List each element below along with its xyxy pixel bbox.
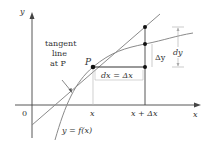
y-axis-label: y — [19, 7, 25, 16]
point-p — [91, 65, 96, 70]
dy-bracket — [172, 27, 184, 67]
dy-arrow-down-icon — [177, 63, 180, 67]
tangent-label-line1: tangent — [45, 39, 77, 48]
dy-label: dy — [173, 48, 183, 57]
dy-arrow-up-icon — [177, 28, 180, 32]
tangent-label-line3: at P — [50, 59, 67, 68]
x-axis-arrow-icon — [194, 103, 201, 108]
differential-diagram: y x 0 x x + Δx P tangent line at P dx = … — [0, 0, 206, 144]
x-plus-dx-tick-label: x + Δx — [131, 109, 158, 118]
curve-label: y = f(x) — [61, 126, 92, 135]
point-curve-end — [143, 42, 147, 46]
dx-label: dx = Δx — [101, 71, 133, 80]
origin-label: 0 — [22, 109, 27, 118]
point-tangent-end — [143, 25, 147, 29]
tangent-label-line2: line — [52, 49, 67, 58]
point-p-label: P — [84, 57, 92, 67]
x-axis-label: x — [193, 110, 198, 119]
delta-y-label: Δy — [155, 53, 166, 62]
x-tick-label: x — [90, 109, 95, 118]
y-axis-arrow-icon — [30, 12, 35, 19]
point-corner — [143, 65, 147, 69]
